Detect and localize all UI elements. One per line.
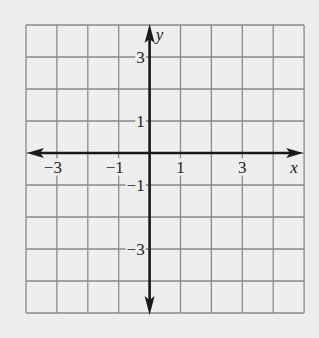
- y-tick-label: −1: [127, 176, 145, 195]
- y-tick-label: −3: [127, 240, 145, 259]
- y-tick-label: 3: [136, 48, 145, 67]
- x-tick-label: −3: [44, 158, 62, 177]
- x-axis-label: x: [289, 158, 298, 177]
- x-tick-label: 1: [176, 158, 185, 177]
- x-tick-label: 3: [238, 158, 247, 177]
- y-axis-label: y: [154, 25, 164, 44]
- coordinate-grid-chart: −3−11331−1−3xy: [0, 0, 319, 338]
- x-tick-label: −1: [106, 158, 124, 177]
- y-tick-label: 1: [136, 112, 145, 131]
- coordinate-plane: −3−11331−1−3xy: [0, 0, 319, 338]
